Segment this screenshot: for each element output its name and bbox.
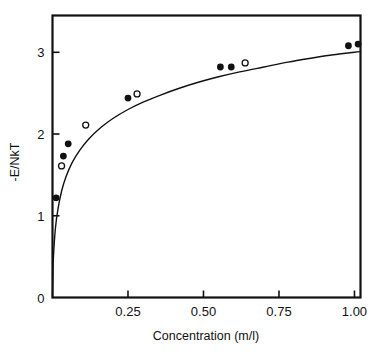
data-point-filled (217, 64, 224, 71)
chart-figure: 0.250.500.751.00 0123 Concentration (m/l… (0, 0, 383, 357)
data-point-filled (228, 64, 235, 71)
x-tick-label: 0.50 (191, 304, 216, 319)
y-tick-label: 1 (37, 209, 44, 224)
y-tick-label: 0 (37, 291, 44, 306)
y-tick-label: 2 (37, 127, 44, 142)
x-tick-label: 1.00 (342, 304, 367, 319)
data-point-filled (345, 42, 352, 49)
data-point-open (134, 91, 140, 97)
scatter-plot: 0.250.500.751.00 0123 Concentration (m/l… (0, 0, 383, 357)
data-point-filled (65, 140, 72, 147)
data-point-open (242, 60, 248, 66)
x-tick-label: 0.75 (266, 304, 291, 319)
data-point-filled (53, 194, 60, 201)
data-point-open (83, 122, 89, 128)
y-axis-title: -E/NkT (8, 142, 22, 181)
data-point-filled (60, 153, 67, 160)
data-point-open (59, 163, 65, 169)
data-point-filled (355, 41, 362, 48)
x-tick-label: 0.25 (115, 304, 140, 319)
y-tick-label: 3 (37, 45, 44, 60)
data-point-filled (125, 95, 132, 102)
x-axis-title: Concentration (m/l) (153, 329, 259, 343)
